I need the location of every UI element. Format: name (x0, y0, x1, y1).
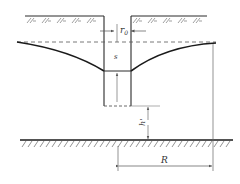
drawdown-curve-left (17, 42, 104, 71)
radius-label: R (160, 155, 168, 165)
ground-surface-left (25, 16, 104, 23)
impermeable-base (20, 140, 233, 147)
r0-dimension: r0 (100, 24, 146, 42)
ground-surface-right (131, 16, 207, 23)
drawdown-curve-right (131, 43, 216, 71)
h-prime-label: h' (138, 119, 147, 126)
well-drawdown-diagram: r0 s h' R (0, 0, 240, 184)
s-label: s (114, 53, 118, 61)
r0-label: r0 (120, 25, 128, 36)
